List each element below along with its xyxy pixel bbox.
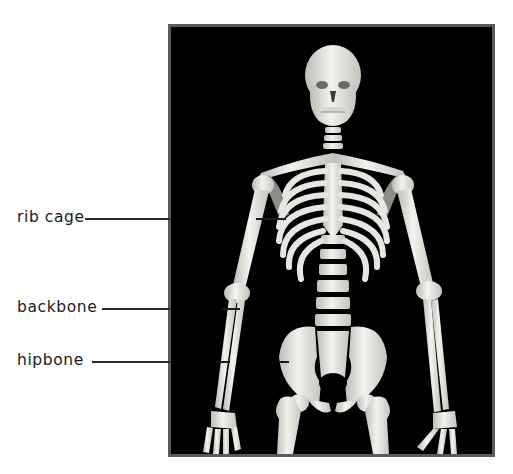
leader-line-hipbone-tip bbox=[279, 361, 289, 363]
label-hipbone: hipbone bbox=[17, 351, 84, 369]
leader-line-rib-cage-tip bbox=[256, 218, 286, 220]
skull bbox=[305, 45, 361, 126]
leader-line-backbone bbox=[102, 308, 171, 310]
leader-line-hipbone bbox=[92, 361, 171, 363]
skeleton-photo bbox=[168, 24, 495, 457]
leader-line-backbone-tip bbox=[222, 308, 240, 310]
skeleton-illustration bbox=[171, 27, 492, 454]
label-rib-cage: rib cage bbox=[17, 208, 85, 226]
label-backbone: backbone bbox=[17, 298, 97, 316]
leader-line-rib-cage bbox=[85, 218, 171, 220]
leader-line-hipbone-mid bbox=[216, 361, 230, 363]
